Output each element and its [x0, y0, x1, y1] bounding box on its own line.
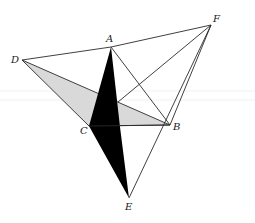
label-D: D — [10, 54, 19, 65]
label-F: F — [212, 13, 221, 24]
label-E: E — [124, 201, 133, 212]
label-B: B — [172, 121, 180, 132]
geometry-figure: A B C D E F — [0, 0, 255, 223]
segment-FE — [129, 25, 211, 198]
segment-AF — [111, 25, 211, 47]
segment-BF — [170, 25, 211, 125]
label-A: A — [105, 33, 113, 44]
label-C: C — [80, 125, 88, 136]
segment-DA — [22, 47, 111, 60]
segment-FP — [118, 25, 211, 102]
